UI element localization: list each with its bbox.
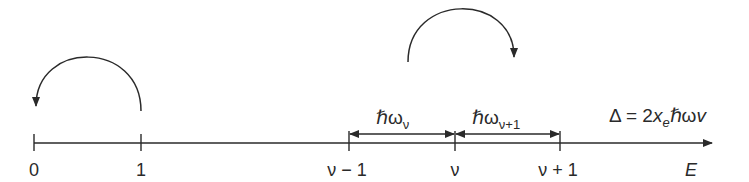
tick-label-v: ν bbox=[451, 160, 460, 180]
tick-label-v-minus-1: ν − 1 bbox=[327, 160, 367, 180]
tick-label-v-plus-1: ν + 1 bbox=[538, 160, 578, 180]
tick-label-0: 0 bbox=[29, 160, 39, 180]
axis-label-E: E bbox=[685, 160, 698, 180]
curved-arrow-left-icon bbox=[36, 57, 141, 111]
energy-axis-diagram: 0 1 ν − 1 ν ν + 1 E ℏων ℏων+1 Δ = 2xeℏωv bbox=[0, 0, 749, 182]
spacing-label-hbar-omega-v: ℏων bbox=[376, 107, 409, 132]
curved-arrow-right-icon bbox=[408, 9, 514, 62]
tick-labels: 0 1 ν − 1 ν ν + 1 E bbox=[29, 160, 698, 180]
tick-label-1: 1 bbox=[136, 160, 146, 180]
anharmonic-delta-label: Δ = 2xeℏωv bbox=[609, 105, 707, 130]
spacing-label-hbar-omega-v1: ℏων+1 bbox=[472, 107, 520, 132]
